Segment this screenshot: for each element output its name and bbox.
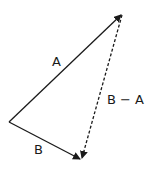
vector-b-minus-a-arrow xyxy=(82,15,122,158)
vector-a-arrow xyxy=(9,15,121,122)
vector-b-minus-a-label: B − A xyxy=(107,93,144,106)
vector-b-label: B xyxy=(34,143,43,156)
vector-a-label: A xyxy=(52,55,61,68)
vector-diagram xyxy=(0,0,147,169)
vector-b-arrow xyxy=(9,122,80,159)
